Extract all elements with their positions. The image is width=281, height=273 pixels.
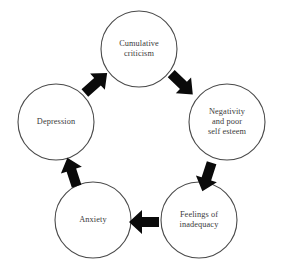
cycle-diagram-canvas: [0, 0, 281, 273]
arrow-feelings-of-inadequacy-to-anxiety: [129, 210, 159, 234]
node-circle-depression[interactable]: [18, 84, 94, 160]
node-circle-anxiety[interactable]: [55, 182, 131, 258]
cycle-diagram: Cumulative criticism Negativity and poor…: [0, 0, 281, 273]
node-circle-feelings-of-inadequacy[interactable]: [161, 182, 237, 258]
node-circle-cumulative-criticism[interactable]: [101, 11, 177, 87]
node-circle-negativity-and-poor-self-esteem[interactable]: [189, 84, 265, 160]
